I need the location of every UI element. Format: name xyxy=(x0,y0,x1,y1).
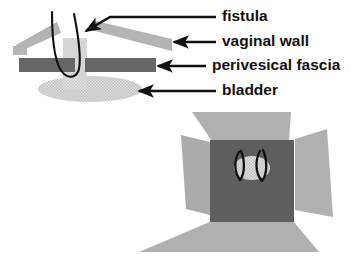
label-fistula: fistula xyxy=(222,7,268,24)
perivesical-fascia-square xyxy=(210,140,294,222)
figure-canvas: fistula vaginal wall perivesical fascia … xyxy=(0,0,351,261)
perivesical-fascia-left xyxy=(19,58,75,72)
label-perivesical-fascia: perivesical fascia xyxy=(212,56,341,73)
vaginal-flap-right xyxy=(295,129,333,217)
perivesical-fascia-right xyxy=(85,58,156,72)
label-vaginal-wall: vaginal wall xyxy=(222,32,309,49)
bladder-shape xyxy=(38,76,142,102)
figure-root: fistula vaginal wall perivesical fascia … xyxy=(0,0,351,261)
label-bladder: bladder xyxy=(222,81,278,98)
